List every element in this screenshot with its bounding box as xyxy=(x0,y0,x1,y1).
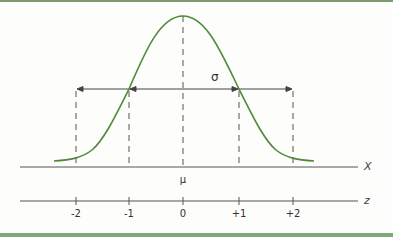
normal-curve-plot xyxy=(0,0,393,237)
z-axis-label: z xyxy=(364,195,370,206)
sigma-label: σ xyxy=(211,71,219,83)
normal-distribution-diagram: σ μ X z -2 -1 0 +1 +2 xyxy=(0,0,393,237)
z-tick-label: +1 xyxy=(232,209,247,219)
x-axis-label: X xyxy=(364,161,372,172)
z-tick-label: +2 xyxy=(286,209,301,219)
z-tick-label: 0 xyxy=(180,209,186,219)
sigma-arrows xyxy=(77,87,292,92)
bottom-border xyxy=(0,233,393,237)
mu-label: μ xyxy=(180,175,186,185)
z-tick-label: -1 xyxy=(124,209,134,219)
dashed-guides xyxy=(76,16,293,167)
z-tick-label: -2 xyxy=(71,209,81,219)
